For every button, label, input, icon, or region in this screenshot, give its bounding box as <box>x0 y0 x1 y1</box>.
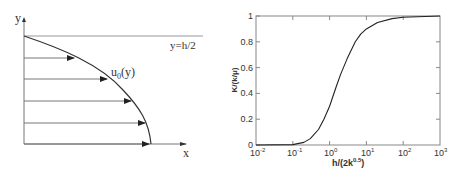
y-axis-title: K/(k/μ) <box>230 67 239 92</box>
x-axis-title: h/(2k0.5) <box>332 157 364 168</box>
y-axis-arrowhead-icon <box>22 17 26 22</box>
y-tick-labels: 0 0.2 0.4 0.6 0.8 1 <box>240 11 253 150</box>
y-tick-label: 0.2 <box>240 114 253 124</box>
x-tick-label: 10-2 <box>250 147 266 158</box>
plot-frame <box>256 16 440 145</box>
x-tick-label: 100 <box>324 147 338 158</box>
y-tick-label: 0.6 <box>240 63 253 73</box>
figure: y x y=h/2 u0(y) <box>0 0 460 173</box>
x-ticks <box>293 16 403 145</box>
permeability-chart: 0 0.2 0.4 0.6 0.8 1 10-2 10-1 100 101 10… <box>230 11 448 168</box>
y-tick-label: 1 <box>248 11 253 21</box>
profile-label: u0(y) <box>111 65 135 81</box>
y-axis-label: y <box>15 11 21 25</box>
y-tick-label: 0.4 <box>240 88 253 98</box>
velocity-profile-diagram: y x y=h/2 u0(y) <box>15 11 203 160</box>
y-tick-label: 0.8 <box>240 37 253 47</box>
x-tick-label: 103 <box>434 147 448 158</box>
permeability-curve <box>256 16 440 145</box>
x-tick-label: 101 <box>361 147 375 158</box>
y-ticks <box>256 16 440 145</box>
boundary-label: y=h/2 <box>170 39 196 51</box>
velocity-profile-curve <box>24 36 151 144</box>
x-tick-label: 102 <box>398 147 412 158</box>
x-tick-labels: 10-2 10-1 100 101 102 103 <box>250 147 448 158</box>
x-axis-label: x <box>183 146 189 160</box>
x-tick-label: 10-1 <box>287 147 303 158</box>
